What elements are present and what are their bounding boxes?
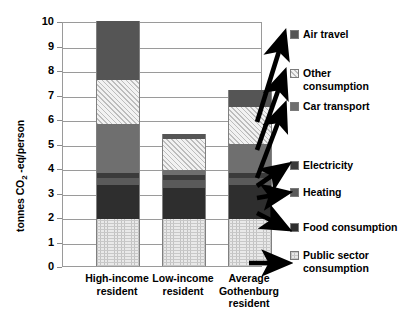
y-tick-mark (57, 267, 62, 268)
y-tick-label: 8 (32, 65, 54, 76)
legend: Air travelOther consumptionCar transport… (268, 0, 418, 316)
legend-item-food[interactable]: Food consumption (290, 221, 398, 234)
y-tick-label: 3 (32, 188, 54, 199)
legend-label: Public sector consumption (303, 249, 369, 274)
legend-label: Heating (303, 186, 342, 199)
bar-segment-heat[interactable] (162, 180, 206, 187)
y-tick-label: 10 (32, 16, 54, 27)
y-axis-title: tonnes CO2 -eq/person (14, 42, 29, 232)
y-tick-label: 9 (32, 41, 54, 52)
bar-segment-other[interactable] (162, 139, 206, 171)
bar-segment-car[interactable] (228, 144, 272, 173)
stacked-bar[interactable] (96, 21, 140, 266)
bar-segment-heat[interactable] (228, 178, 272, 185)
legend-swatch-icon (290, 102, 299, 111)
legend-label: Air travel (303, 28, 349, 41)
bar-segment-food[interactable] (96, 185, 140, 219)
bar-segment-other[interactable] (228, 107, 272, 144)
legend-item-air[interactable]: Air travel (290, 28, 349, 41)
bar-segment-car[interactable] (96, 124, 140, 173)
y-tick-label: 5 (32, 139, 54, 150)
plot-area (62, 22, 262, 267)
legend-item-car[interactable]: Car transport (290, 100, 370, 113)
legend-label: Other consumption (303, 67, 369, 92)
bar-segment-air[interactable] (228, 90, 272, 107)
bar-segment-food[interactable] (228, 185, 272, 219)
bar-segment-public[interactable] (96, 219, 140, 266)
bar-segment-public[interactable] (162, 219, 206, 266)
legend-item-elec[interactable]: Electricity (290, 159, 353, 172)
legend-item-public[interactable]: Public sector consumption (290, 249, 369, 274)
y-tick-label: 4 (32, 163, 54, 174)
stacked-bar[interactable] (162, 134, 206, 266)
gridline (63, 48, 261, 49)
bar-segment-food[interactable] (162, 188, 206, 220)
bar-segment-other[interactable] (96, 80, 140, 124)
legend-label: Car transport (303, 100, 370, 113)
gridline (63, 72, 261, 73)
legend-item-other[interactable]: Other consumption (290, 67, 369, 92)
stacked-bar[interactable] (228, 90, 272, 266)
legend-swatch-icon (290, 30, 299, 39)
y-tick-label: 0 (32, 261, 54, 272)
legend-label: Food consumption (303, 221, 398, 234)
bar-segment-air[interactable] (96, 21, 140, 80)
legend-label: Electricity (303, 159, 353, 172)
y-tick-label: 7 (32, 90, 54, 101)
y-tick-label: 1 (32, 237, 54, 248)
legend-swatch-icon (290, 188, 299, 197)
y-tick-label: 2 (32, 212, 54, 223)
legend-swatch-icon (290, 69, 299, 78)
y-tick-label: 6 (32, 114, 54, 125)
legend-swatch-icon (290, 161, 299, 170)
chart-canvas: tonnes CO2 -eq/person 012345678910 High-… (0, 0, 418, 316)
bar-segment-public[interactable] (228, 219, 272, 266)
legend-item-heat[interactable]: Heating (290, 186, 342, 199)
legend-swatch-icon (290, 251, 299, 260)
legend-swatch-icon (290, 223, 299, 232)
bar-segment-heat[interactable] (96, 178, 140, 185)
